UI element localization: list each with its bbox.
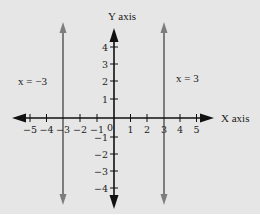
arrow-down-icon: [161, 194, 168, 205]
x-tick-label: 3: [161, 124, 167, 135]
y-axis-label: Y axis: [108, 10, 136, 22]
y-tick-label: −2: [94, 149, 108, 160]
x-tick-label: 2: [144, 124, 150, 135]
y-tick-label: −4: [94, 183, 108, 194]
arrow-down-icon: [110, 195, 119, 209]
annotation-x-3: x = 3: [176, 72, 199, 84]
coordinate-plane: −5 −4 −3 −2 −1 0 1 2 3 4 5 X axis 4 3 2 …: [0, 0, 260, 221]
annotation-x-neg3: x = −3: [18, 75, 47, 87]
y-tick-label: −3: [94, 166, 108, 177]
x-tick-label: 1: [127, 124, 133, 135]
x-tick-label: 5: [193, 124, 199, 135]
arrow-up-icon: [60, 22, 67, 33]
x-tick-label: −4: [39, 124, 53, 135]
x-tick-label: −3: [56, 124, 70, 135]
line-x-neg3: [60, 22, 67, 205]
y-tick-label: 1: [102, 94, 108, 105]
x-tick-label: −5: [23, 124, 37, 135]
x-axis-label: X axis: [221, 112, 249, 124]
y-axis: 4 3 2 1 −1 −2 −3 −4 Y axis: [94, 10, 136, 209]
line-x-3: [161, 22, 168, 205]
x-axis: −5 −4 −3 −2 −1 0 1 2 3 4 5 X axis: [12, 112, 249, 135]
y-tick-label: −1: [94, 132, 108, 143]
arrow-up-icon: [110, 28, 119, 42]
arrow-up-icon: [161, 22, 168, 33]
arrow-down-icon: [60, 194, 67, 205]
y-tick-label: 3: [102, 59, 108, 70]
x-tick-label: −2: [73, 124, 87, 135]
y-tick-label: 2: [102, 76, 108, 87]
y-tick-label: 4: [102, 42, 108, 53]
arrow-right-icon: [200, 114, 214, 123]
x-tick-label: 4: [177, 124, 183, 135]
arrow-left-icon: [12, 114, 26, 123]
